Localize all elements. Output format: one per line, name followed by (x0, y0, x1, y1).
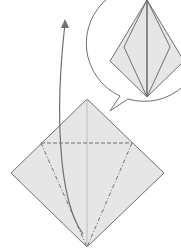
result-bubble (86, 0, 181, 111)
diagram-svg (0, 0, 181, 252)
square-diamond (11, 99, 164, 247)
origami-diagram (0, 0, 181, 252)
